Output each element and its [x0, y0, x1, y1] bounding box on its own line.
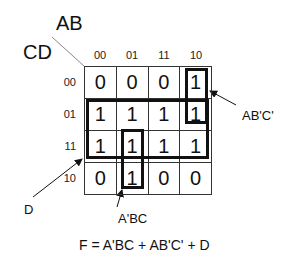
col-variable-label: AB: [56, 13, 83, 33]
row-header-00: 00: [54, 77, 76, 88]
row-header-10: 10: [54, 173, 76, 184]
kmap-cell: 0: [148, 163, 180, 195]
col-header-10: 10: [180, 50, 212, 61]
col-header-01: 01: [116, 50, 148, 61]
col-header-11: 11: [148, 50, 180, 61]
kmap-cell: 0: [180, 163, 212, 195]
arrow-abc-prime: [210, 91, 236, 105]
label-ab-c-prime: AB'C': [242, 109, 274, 123]
group-ab-c-prime-box: [185, 68, 208, 124]
col-header-00: 00: [84, 50, 116, 61]
label-d: D: [24, 203, 33, 217]
boolean-formula: F = A'BC + AB'C' + D: [79, 237, 210, 253]
row-header-11: 11: [54, 141, 76, 152]
kmap-cell: 0: [116, 67, 148, 99]
kmap-cell: 0: [85, 67, 117, 99]
kmap-cell: 0: [85, 163, 117, 195]
label-a-prime-bc: A'BC: [118, 212, 147, 226]
corner-diagonal: [52, 37, 84, 66]
row-header-01: 01: [54, 109, 76, 120]
row-variable-label: CD: [23, 42, 52, 62]
kmap-row-10: 0 1 0 0: [85, 163, 212, 195]
group-a-prime-bc-box: [121, 129, 144, 189]
kmap-cell: 0: [148, 67, 180, 99]
